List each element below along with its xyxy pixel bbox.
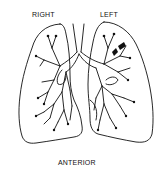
lungs-illustration: [0, 0, 168, 177]
anterior-label: ANTERIOR: [58, 159, 96, 166]
lung-diagram: RIGHT LEFT ANTERIOR: [0, 0, 168, 177]
trachea: [73, 24, 84, 52]
right-label: RIGHT: [32, 11, 55, 18]
right-bronchial-tree: [36, 36, 72, 130]
left-bronchial-tree: [94, 34, 134, 130]
left-label: LEFT: [100, 11, 118, 18]
left-lung-outline: [88, 22, 153, 142]
right-lung-outline: [19, 24, 82, 143]
